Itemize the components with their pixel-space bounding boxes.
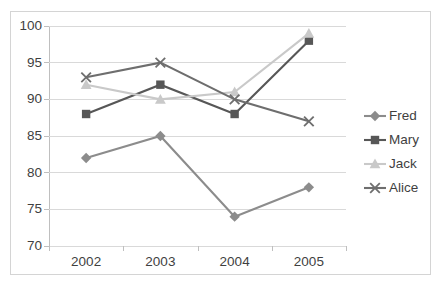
series-plot (49, 26, 346, 246)
chart-container: 707580859095100 2002200320042005 FredMar… (10, 11, 431, 275)
legend-marker-icon (363, 157, 387, 171)
y-axis-tick-label: 90 (27, 93, 42, 107)
y-axis-tick-label: 75 (27, 203, 42, 217)
x-axis-tick-label: 2003 (145, 255, 175, 269)
legend-marker-icon (363, 133, 387, 147)
legend-item-mary[interactable]: Mary (363, 128, 429, 152)
plot-area: 707580859095100 2002200320042005 (49, 26, 346, 246)
data-point-marker (81, 153, 91, 163)
legend-item-jack[interactable]: Jack (363, 152, 429, 176)
x-axis-tick (272, 246, 273, 251)
series-line (86, 136, 309, 217)
x-axis-tick (123, 246, 124, 251)
x-axis-tick (49, 246, 50, 251)
series-fred (81, 131, 314, 222)
legend-marker-icon (363, 109, 387, 123)
x-axis-tick-label: 2004 (220, 255, 250, 269)
data-point-marker (304, 182, 314, 192)
series-line (86, 41, 309, 114)
data-point-marker (230, 110, 238, 118)
series-line (86, 33, 309, 99)
legend-label: Alice (389, 181, 418, 195)
chart-legend: FredMaryJackAlice (363, 104, 429, 200)
y-axis-tick-label: 100 (19, 19, 42, 33)
legend-label: Fred (389, 109, 417, 123)
y-axis-tick-label: 95 (27, 56, 42, 70)
data-point-marker (305, 36, 313, 44)
x-axis-tick (346, 246, 347, 251)
data-point-marker (156, 80, 164, 88)
data-point-marker (303, 28, 314, 38)
legend-label: Jack (389, 157, 417, 171)
y-axis-tick-label: 85 (27, 129, 42, 143)
legend-item-alice[interactable]: Alice (363, 176, 429, 200)
x-axis-tick-label: 2005 (294, 255, 324, 269)
series-jack (81, 28, 315, 104)
x-axis-tick-label: 2002 (71, 255, 101, 269)
legend-marker-icon (363, 181, 387, 195)
x-axis-tick (198, 246, 199, 251)
series-alice (81, 58, 313, 126)
y-axis-tick-label: 80 (27, 166, 42, 180)
data-point-marker (82, 110, 90, 118)
legend-item-fred[interactable]: Fred (363, 104, 429, 128)
legend-label: Mary (389, 133, 419, 147)
series-mary (82, 36, 313, 118)
y-axis-tick-label: 70 (27, 239, 42, 253)
